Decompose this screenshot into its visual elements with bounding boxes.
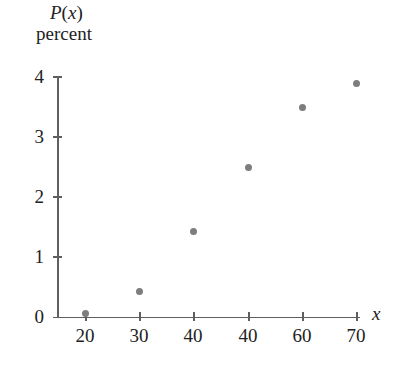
y-tick-label-2: 2	[22, 186, 44, 208]
y-axis-function-letter: P	[50, 2, 62, 23]
x-tick-label-0: 20	[65, 325, 105, 347]
data-point	[245, 164, 252, 171]
y-tick-label-4: 4	[22, 66, 44, 88]
y-tick-label-0: 0	[22, 306, 44, 328]
y-axis-paren-close: )	[76, 2, 82, 23]
x-axis-line	[57, 317, 360, 319]
x-tick-label-1: 30	[119, 325, 159, 347]
data-point	[82, 310, 89, 317]
y-tick-4	[53, 76, 62, 78]
y-tick-1	[53, 256, 62, 258]
data-point	[353, 80, 360, 87]
x-tick-5	[356, 312, 358, 321]
x-axis-title: x	[372, 303, 380, 325]
scatter-plot-figure: P(x) percent 4 3 2 1 0 20 30 40 40 60 70…	[0, 0, 406, 371]
x-tick-label-4: 60	[282, 325, 322, 347]
y-axis-function-label: P(x)	[36, 2, 92, 23]
y-tick-2	[53, 196, 62, 198]
x-tick-label-2: 40	[173, 325, 213, 347]
x-tick-1	[139, 312, 141, 321]
y-axis-unit-label: percent	[36, 23, 92, 44]
y-tick-label-1: 1	[22, 246, 44, 268]
x-tick-label-5: 70	[336, 325, 376, 347]
x-tick-3	[248, 312, 250, 321]
y-axis-title: P(x) percent	[36, 2, 92, 44]
x-tick-2	[193, 312, 195, 321]
y-tick-0	[53, 317, 62, 319]
data-point	[190, 228, 197, 235]
data-point	[136, 288, 143, 295]
data-point	[299, 104, 306, 111]
y-tick-label-3: 3	[22, 126, 44, 148]
x-tick-4	[302, 312, 304, 321]
x-tick-label-3: 40	[228, 325, 268, 347]
y-tick-3	[53, 136, 62, 138]
